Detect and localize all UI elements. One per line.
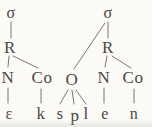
node-coda-Co1: Co	[32, 69, 53, 86]
node-coda-Co2: Co	[123, 69, 144, 86]
syllable-tree-diagram: σRNCoεkσORNCosplen	[0, 0, 152, 127]
node-segment-l: l	[83, 105, 88, 122]
edge-R1-N1	[8, 56, 9, 67]
edge-R2-N2	[105, 56, 107, 67]
edge-O-l	[76, 90, 86, 104]
node-onset-O: O	[66, 71, 79, 88]
edge-R1-Co1	[13, 56, 38, 68]
node-rhyme-R2: R	[102, 39, 114, 56]
node-nucleus-N2: N	[98, 69, 111, 86]
node-rhyme-R1: R	[4, 39, 16, 56]
node-segment-p: p	[71, 107, 80, 124]
node-segment-s: s	[57, 106, 64, 122]
node-syllable-sigma1: σ	[6, 5, 15, 21]
edge-R2-Co2	[112, 56, 131, 68]
node-segment-n: n	[130, 106, 139, 122]
node-segment-e: e	[101, 106, 109, 122]
edge-sigma2-O	[74, 23, 105, 69]
node-segment-eps: ε	[5, 106, 12, 122]
node-syllable-sigma2: σ	[103, 5, 112, 21]
edge-O-s	[60, 90, 68, 104]
node-nucleus-N1: N	[2, 69, 15, 86]
node-segment-k: k	[37, 105, 46, 122]
edge-O-p	[72, 90, 74, 104]
